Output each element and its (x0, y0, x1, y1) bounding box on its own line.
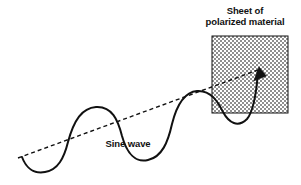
diagram-canvas (0, 0, 301, 185)
sheet-caption: Sheet of polarized material (193, 5, 297, 27)
sine-wave-caption: Sine wave (93, 138, 163, 149)
polarized-sheet-body (212, 36, 288, 113)
polarized-light-diagram: Sheet of polarized material Sine wave (0, 0, 301, 185)
sheet-caption-line-2: polarized material (193, 16, 297, 27)
polarized-sheet (212, 36, 288, 113)
sheet-caption-line-1: Sheet of (193, 5, 297, 16)
